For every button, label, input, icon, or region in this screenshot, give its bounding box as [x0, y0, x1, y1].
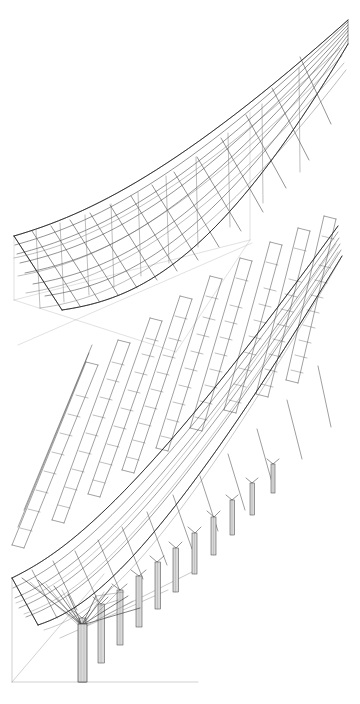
diagonal-reference [12, 574, 104, 682]
tree-branch [82, 586, 112, 625]
lower-ground-and-base-lines [12, 574, 198, 682]
upper-shell-boundary-edges [14, 20, 348, 310]
drawing-sheet [0, 0, 360, 704]
drawing-canvas [0, 0, 360, 704]
upper-shell-lower-mesh [14, 48, 346, 308]
tree-branch [38, 580, 82, 625]
upper-view-single-shell [14, 20, 348, 352]
tree-branch [82, 608, 140, 625]
column [230, 500, 235, 535]
tree-branch [68, 594, 82, 625]
lower-view-canopy-array [12, 216, 342, 682]
column [250, 483, 255, 515]
column [173, 548, 179, 592]
tree-column-shaft [78, 624, 87, 682]
upper-construction-lines [14, 112, 252, 352]
column [155, 562, 161, 609]
canopy-columns [74, 459, 279, 682]
canopy-tip-grid-rungs [20, 236, 334, 531]
